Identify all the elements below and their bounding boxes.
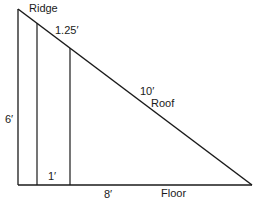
height-label: 6′ bbox=[5, 114, 13, 125]
roof-line bbox=[18, 9, 252, 185]
roof-diagram bbox=[0, 0, 258, 201]
stud-spacing-label: 1′ bbox=[48, 171, 56, 182]
ridge-label: Ridge bbox=[29, 3, 58, 14]
rafter-offset-label: 1.25′ bbox=[55, 25, 78, 36]
roof-length-label: 10′ bbox=[140, 86, 154, 97]
floor-length-label: 8′ bbox=[104, 189, 112, 200]
roof-label: Roof bbox=[151, 98, 174, 109]
floor-label: Floor bbox=[161, 188, 186, 199]
